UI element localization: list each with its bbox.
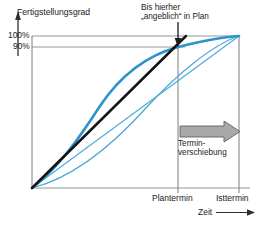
- chart-figure: Fertigstellungsgrad 100% 90% Bis hierher…: [0, 0, 264, 227]
- x-tick-label-plantermin: Plantermin: [152, 194, 193, 204]
- schedule-shift-label: Termin- verschiebung: [178, 139, 227, 157]
- y-tick-label-100: 100%: [8, 31, 29, 40]
- zeit-axis-arrow-icon: [247, 209, 255, 215]
- y-tick-label-90: 90%: [13, 42, 30, 51]
- schedule-shift-line-2: verschiebung: [178, 148, 227, 157]
- plan-callout-line-2: „angeblich“ in Plan: [141, 12, 209, 21]
- x-tick-label-isttermin: Isttermin: [216, 194, 249, 204]
- axis-group: [15, 11, 255, 216]
- x-axis-title: Zeit: [198, 208, 212, 218]
- series-restaufwand-gerade: [32, 36, 239, 188]
- plan-callout-label: Bis hierher „angeblich“ in Plan: [141, 3, 209, 21]
- schedule-shift-line-1: Termin-: [178, 139, 227, 148]
- plan-callout-line-1: Bis hierher: [141, 3, 209, 12]
- y-axis-title: Fertigstellungsgrad: [17, 8, 90, 18]
- series-plan-linear: [32, 36, 186, 188]
